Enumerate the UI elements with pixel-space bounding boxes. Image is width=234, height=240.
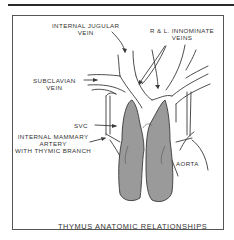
internal-jugular-vein: [118, 55, 120, 76]
label-innominate-veins: R & L. INNOMINATE VEINS: [150, 27, 214, 41]
label-internal-mammary-artery: INTERNAL MAMMARY ARTERY WITH THYMIC BRAN…: [15, 133, 91, 154]
arrow-innominate-right: [152, 50, 158, 88]
label-subclavian-vein: SUBCLAVIAN VEIN: [33, 77, 76, 91]
label-svc: SVC: [74, 122, 88, 129]
label-aorta: AORTA: [176, 160, 199, 167]
figure-caption: THYMUS ANATOMIC RELATIONSHIPS: [58, 222, 207, 231]
label-internal-jugular-vein: INTERNAL JUGULAR VEIN: [52, 22, 119, 36]
